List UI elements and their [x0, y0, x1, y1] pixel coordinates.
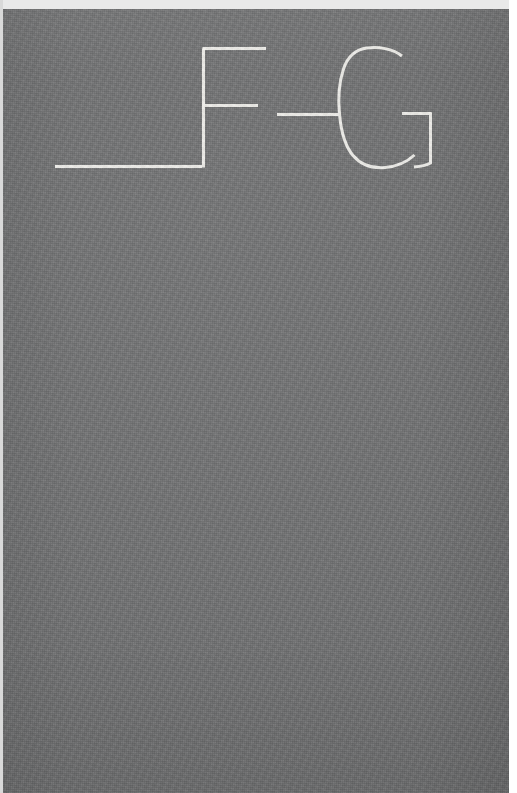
inscription-svg	[3, 9, 509, 793]
glyph-strokes-layer	[3, 9, 509, 793]
right-margin-strip	[509, 0, 517, 793]
glyph-g-right-stem	[414, 113, 431, 168]
glyph-g-bowl	[339, 48, 415, 168]
textured-gray-background	[3, 9, 509, 793]
vignette-overlay	[3, 9, 509, 793]
top-margin-strip	[0, 0, 517, 9]
left-margin-strip	[0, 0, 3, 793]
scan-page: _F-G _F-G	[0, 0, 517, 793]
